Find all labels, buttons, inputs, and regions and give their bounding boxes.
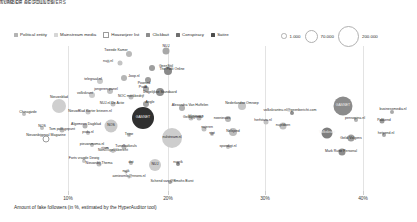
bubble-label: Angle (146, 101, 155, 105)
bubble-label: nujik (122, 170, 129, 174)
axis-tick-label: 30% (260, 196, 270, 201)
bubble-label: nugrik (173, 161, 183, 165)
bubble-label: Nederlandse Omroep (225, 102, 258, 106)
bubble-label: nujeren (201, 126, 213, 130)
legend-item-satire[interactable]: Satire (211, 32, 229, 37)
legend-item-label: Conspiracy (182, 32, 204, 37)
bubble-label: Joop.nl (128, 75, 139, 79)
number-of-followers-legend: 1.00070.000200.000 (281, 26, 378, 46)
bubble-label: GASNET (336, 104, 350, 108)
size-legend-title: NUMBER OF FOLLOWERS (0, 0, 66, 5)
bubble-label: Volkskrant (319, 131, 335, 135)
bubble-label: GASNET (136, 116, 150, 120)
axis-caption: Amount of fake followers (in %, estimate… (14, 205, 157, 210)
bubble-label: pensopina.nl (345, 117, 365, 121)
bubble-label: Alexandra Van Huffelen (172, 104, 209, 108)
bubble-label: Nelsjond (226, 130, 240, 134)
bubble-label: NUJ.nl De Actie (100, 102, 125, 106)
bubble-label: telegraaf.nl (84, 78, 101, 82)
bubble-label: Geldgigeraal (183, 116, 203, 120)
bubble-label: NOS (107, 124, 115, 128)
bubble-data-point[interactable] (121, 75, 127, 81)
type-of-accounts-legend: Political entityMainstream mediaHoaxwijz… (14, 32, 229, 38)
bubble-label: PvdA (139, 86, 147, 90)
axis-tick-label: 20% (163, 196, 173, 201)
bubble-label: nosnieuws (214, 117, 231, 121)
bubble-label: njpt (209, 132, 215, 136)
legend-item-political-entity[interactable]: Political entity (14, 32, 47, 37)
bubble-label: Mark Rutte Personal (325, 150, 357, 154)
legend-item-label: Political entity (20, 32, 47, 37)
bubble-label: volkskrant (77, 92, 93, 96)
axis-tick-mark (168, 191, 169, 195)
bubble-label: volkskrantnu.nl@geenbericht.com (264, 109, 317, 113)
axis-tick-mark (68, 191, 69, 195)
legend-item-conspiracy[interactable]: Conspiracy (176, 32, 204, 37)
bubble-label: nujebben (276, 124, 290, 128)
bubble-label: businessmedia.nl (379, 108, 406, 112)
bubble-label: Forts vragde Dewig (69, 157, 99, 161)
bubble-label: Nieuwsbijgeval Magazine (26, 134, 66, 138)
size-legend-label: 70.000 (321, 34, 334, 39)
gridline-10pct (68, 46, 69, 191)
axis-tick-label: 10% (63, 196, 73, 201)
bubble-label: Pakkend (377, 119, 391, 123)
bubble-label: NUJ (163, 45, 170, 49)
x-axis: 10%20%30%40% (0, 191, 417, 205)
bubble-label: hetpend.nl (378, 132, 394, 136)
size-legend-label: 200.000 (362, 34, 378, 39)
legend-item-label: Hoaxwijzer list (111, 32, 139, 37)
size-legend-circle-icon (338, 26, 359, 47)
bubble-label: Tweede Kamer (104, 49, 128, 53)
bubble-label: Trijne (125, 133, 134, 137)
bubble-label: nulstream.nl (162, 136, 181, 140)
legend-item-label: Clickbait (152, 32, 169, 37)
bubble-label: NieuwBlad Korter brieven.nl (68, 110, 111, 114)
legend-swatch-icon (54, 33, 58, 37)
legend-item-mainstream-media[interactable]: Mainstream media (54, 32, 96, 37)
axis-tick-label: 40% (358, 196, 368, 201)
legend-swatch-icon (14, 33, 18, 37)
bubble-label: rijom (101, 147, 109, 151)
bubble-data-point[interactable] (52, 99, 66, 113)
bubble-label: dot (129, 161, 134, 165)
legend-swatch-icon (211, 33, 215, 37)
bubble-label: spondigt.nl (220, 145, 237, 149)
legend-item-hoaxwijzer-list[interactable]: Hoaxwijzer list (103, 32, 139, 38)
bubble-data-point[interactable] (149, 65, 155, 71)
bubble-label: Dagelijkse Standaard (143, 91, 176, 95)
size-legend-item-70000: 70.000 (305, 30, 334, 43)
bubble-label: herfstara.nl (254, 119, 272, 123)
bubble-label: Chinagizde (19, 111, 37, 115)
bubble-label: Algemeen Dagblad (71, 123, 101, 127)
bubble-label: NOC merkbedrijf (118, 95, 144, 99)
size-legend-circle-icon (305, 30, 318, 43)
axis-tick-mark (363, 191, 364, 195)
bubble-chart-plot-area: Tweede KamerNUJnujij.nlGeenStijlThe Post… (0, 46, 417, 191)
legend-swatch-icon (176, 33, 180, 37)
bubble-label: NOS (38, 125, 46, 129)
bubble-label: nujij.nl (103, 60, 113, 64)
bubble-label: jongeren-panel (94, 88, 117, 92)
bubble-label: Nieuwsblad (50, 96, 68, 100)
bubble-label: NUJ (152, 163, 159, 167)
bubble-label: The Post Online (159, 68, 184, 72)
bubble-label: pvda.nl (82, 131, 93, 135)
bubble-label: aenieornle@nnons.nl (112, 175, 145, 179)
legend-item-label: Mainstream media (60, 32, 96, 37)
bubble-data-point[interactable] (118, 61, 123, 66)
legend-item-label: Satire (217, 32, 228, 37)
legend-swatch-icon (103, 32, 109, 38)
bubble-label: Schend van @Bmohs Burst (150, 180, 193, 184)
size-legend-item-200000: 200.000 (338, 26, 378, 47)
size-legend-item-1000: 1.000 (281, 33, 301, 39)
bubble-label: Geldi Volgens (340, 137, 362, 141)
legend-swatch-icon (146, 33, 150, 37)
bubble-label: Nieuwsbij Thema (86, 162, 113, 166)
size-legend-label: 1.000 (290, 34, 301, 39)
legend-item-clickbait[interactable]: Clickbait (146, 32, 169, 37)
axis-tick-mark (265, 191, 266, 195)
size-legend-circle-icon (281, 33, 287, 39)
bubble-label: Tom polit-gepunt (49, 128, 75, 132)
